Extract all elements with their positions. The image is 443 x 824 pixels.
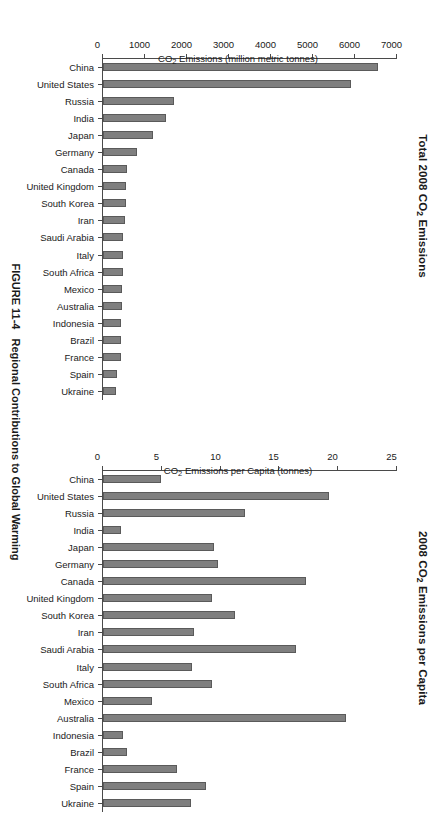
figure-rotator: Total 2008 CO2 Emissions ChinaUnited Sta… [0, 0, 443, 824]
category-label: Mexico [64, 283, 94, 294]
bar [103, 216, 125, 224]
bar [103, 526, 121, 534]
bar-slot: Indonesia [103, 314, 397, 331]
bar-slot: United Kingdom [103, 178, 397, 195]
category-tick [98, 169, 103, 170]
value-axis-title-capita-subscript: 2 [178, 469, 182, 478]
value-axis-tick [102, 466, 103, 471]
chart-title-total-tail: Emissions [417, 216, 429, 278]
bar-slot: Germany [103, 143, 397, 160]
chart-panel-total-emissions: Total 2008 CO2 Emissions ChinaUnited Sta… [0, 0, 443, 412]
bar-slot: Australia [103, 709, 397, 726]
bar [103, 97, 174, 105]
value-axis-title-total-tail: Emissions (million metric tonnes) [176, 53, 317, 64]
value-axis-tick-label: 5 [154, 451, 159, 462]
category-label: France [64, 764, 94, 775]
category-label: United Kingdom [26, 181, 94, 192]
category-tick [98, 374, 103, 375]
bar-slot: Ukraine [103, 795, 397, 812]
category-label: Italy [77, 661, 94, 672]
category-tick [98, 769, 103, 770]
category-tick [98, 118, 103, 119]
bar [103, 663, 192, 671]
category-label: France [64, 352, 94, 363]
bar [103, 251, 123, 259]
value-axis-title-per-capita: CO2 Emissions per Capita (tonnes) [164, 465, 312, 476]
bar [103, 782, 206, 790]
bar-slot: India [103, 109, 397, 126]
bar-slot: Iran [103, 624, 397, 641]
value-axis-tick [161, 466, 162, 471]
bar [103, 336, 121, 344]
figure-caption: FIGURE 11-4Regional Contributions to Glo… [10, 0, 22, 824]
bar [103, 370, 117, 378]
category-label: Canada [61, 164, 94, 175]
category-label: Indonesia [53, 729, 94, 740]
value-axis-tick-label: 3000 [213, 39, 234, 50]
category-tick [98, 237, 103, 238]
bar [103, 714, 346, 722]
category-label: Iran [78, 215, 94, 226]
bar-slot: France [103, 349, 397, 366]
category-tick [98, 547, 103, 548]
category-tick [98, 220, 103, 221]
bar [103, 114, 166, 122]
category-label: United States [37, 490, 94, 501]
category-label: Australia [57, 712, 94, 723]
plot-area-total-emissions: ChinaUnited StatesRussiaIndiaJapanGerman… [102, 58, 397, 400]
chart-title-capita-main: 2008 CO [417, 531, 429, 578]
category-tick [98, 101, 103, 102]
category-label: Mexico [64, 695, 94, 706]
category-tick [98, 803, 103, 804]
category-tick [98, 667, 103, 668]
category-tick [98, 340, 103, 341]
category-label: China [69, 61, 94, 72]
bar [103, 492, 329, 500]
category-tick [98, 496, 103, 497]
category-tick [98, 357, 103, 358]
bar [103, 611, 235, 619]
chart-title-per-capita: 2008 CO2 Emissions per Capita [417, 412, 429, 824]
category-tick [98, 701, 103, 702]
bar [103, 285, 122, 293]
value-axis-title-total-subscript: 2 [172, 57, 176, 66]
bar-slot: Spain [103, 366, 397, 383]
bar [103, 645, 296, 653]
bar [103, 387, 116, 395]
bar [103, 302, 122, 310]
category-label: Saudi Arabia [40, 644, 94, 655]
bar-slot: France [103, 761, 397, 778]
bar-slot: Canada [103, 573, 397, 590]
value-axis-tick [102, 54, 103, 59]
category-tick [98, 67, 103, 68]
category-tick [98, 186, 103, 187]
category-label: Spain [70, 781, 94, 792]
figure-11-4: Total 2008 CO2 Emissions ChinaUnited Sta… [0, 0, 443, 824]
bar-slot: Saudi Arabia [103, 229, 397, 246]
bar-slot: India [103, 521, 397, 538]
bar-slot: Italy [103, 658, 397, 675]
category-label: Germany [55, 147, 94, 158]
value-axis-tick-label: 15 [269, 451, 280, 462]
value-axis-tick-label: 7000 [381, 39, 402, 50]
bar [103, 319, 121, 327]
bar-slot: Saudi Arabia [103, 641, 397, 658]
category-label: United Kingdom [26, 593, 94, 604]
bar-slot: Brazil [103, 744, 397, 761]
bar-slot: United States [103, 487, 397, 504]
bar [103, 577, 306, 585]
bar [103, 80, 351, 88]
category-label: Japan [68, 129, 94, 140]
category-label: Spain [70, 369, 94, 380]
bar-slot: Japan [103, 126, 397, 143]
category-label: China [69, 473, 94, 484]
category-label: Brazil [70, 335, 94, 346]
value-axis-tick-label: 2000 [171, 39, 192, 50]
bar-slot: South Korea [103, 607, 397, 624]
category-tick [98, 84, 103, 85]
category-tick [98, 752, 103, 753]
category-tick [98, 718, 103, 719]
category-label: South Korea [41, 198, 94, 209]
bar-slot: Japan [103, 538, 397, 555]
value-axis-tick-label: 0 [95, 451, 100, 462]
